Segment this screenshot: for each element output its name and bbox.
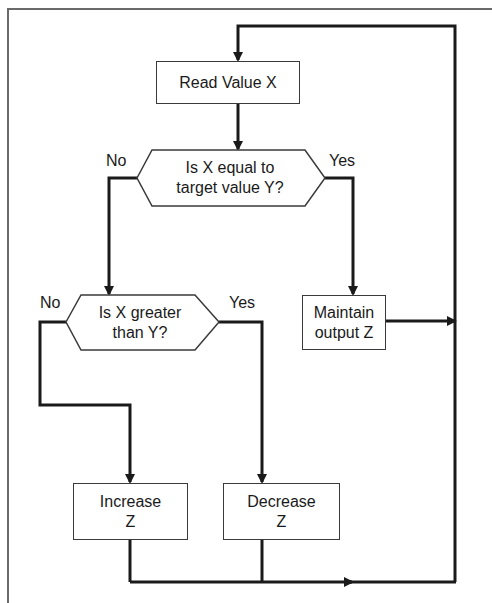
equal-yes-label: Yes xyxy=(329,152,355,170)
decrease-line1: Decrease xyxy=(247,492,315,512)
greater-yes-arrow xyxy=(219,322,262,482)
increase-line1: Increase xyxy=(100,492,161,512)
read-value-label: Read Value X xyxy=(179,73,277,93)
equal-yes-arrow xyxy=(325,178,353,294)
decrease-line2: Z xyxy=(277,512,287,532)
maintain-line1: Maintain xyxy=(314,303,374,323)
maintain-line2: output Z xyxy=(315,323,374,343)
decision-equal-node: Is X equal to target value Y? xyxy=(150,150,310,206)
equal-no-arrow xyxy=(109,178,137,294)
equal-no-label: No xyxy=(106,152,126,170)
increase-line2: Z xyxy=(126,512,136,532)
greater-yes-label: Yes xyxy=(229,294,255,312)
decision-greater-line2: than Y? xyxy=(113,323,168,343)
decision-greater-node: Is X greater than Y? xyxy=(78,295,202,350)
flowchart-diagram: Read Value X Is X equal to target value … xyxy=(0,0,492,603)
decision-greater-line1: Is X greater xyxy=(99,303,182,323)
decision-equal-line1: Is X equal to xyxy=(186,158,275,178)
decision-equal-line2: target value Y? xyxy=(176,178,283,198)
greater-no-label: No xyxy=(40,294,60,312)
